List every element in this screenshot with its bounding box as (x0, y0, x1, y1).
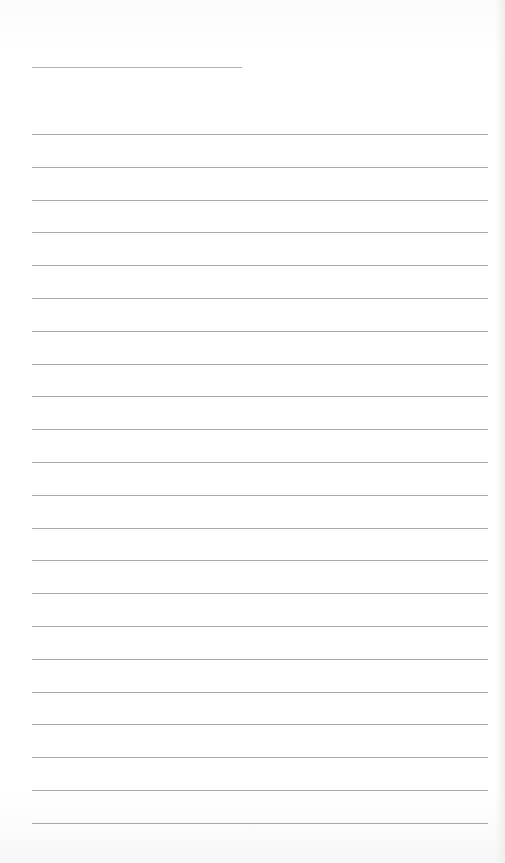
ruled-line (32, 790, 488, 791)
ruled-line (32, 200, 488, 201)
lined-paper-page (0, 0, 505, 863)
ruled-line (32, 462, 488, 463)
ruled-line (32, 265, 488, 266)
ruled-line (32, 429, 488, 430)
ruled-line (32, 560, 488, 561)
ruled-line (32, 396, 488, 397)
ruled-line (32, 626, 488, 627)
ruled-line (32, 757, 488, 758)
ruled-line (32, 331, 488, 332)
page-edge-shadow (495, 0, 505, 863)
ruled-line (32, 364, 488, 365)
ruled-line (32, 593, 488, 594)
ruled-line (32, 724, 488, 725)
ruled-line (32, 232, 488, 233)
ruled-line (32, 692, 488, 693)
ruled-line (32, 134, 488, 135)
header-name-line (32, 67, 242, 68)
ruled-line (32, 298, 488, 299)
ruled-line (32, 659, 488, 660)
ruled-line (32, 823, 488, 824)
ruled-line (32, 495, 488, 496)
ruled-line (32, 167, 488, 168)
ruled-line (32, 528, 488, 529)
